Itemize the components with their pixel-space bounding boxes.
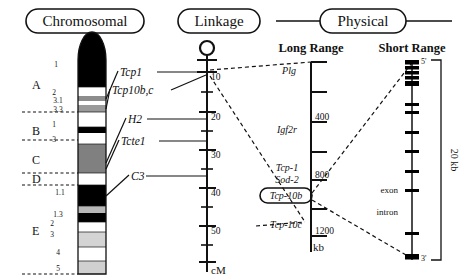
arm-label-e: E — [32, 224, 39, 238]
subband-label: 1 — [52, 120, 56, 129]
gene-label-tcp10bc: Tcp10b,c — [112, 84, 153, 97]
exon — [405, 150, 419, 153]
five-prime-label: 5' — [421, 57, 427, 66]
band — [78, 127, 106, 133]
linkage-tick-label: 10 — [211, 72, 221, 82]
subband-label: 2 — [50, 219, 54, 228]
marker-label-tcp10c: Tcp-10c — [270, 219, 302, 230]
linkage-map: 10 20 30 40 50 cM — [197, 41, 226, 276]
chromosome-subband-labels: 1 2 3.1 3.3 1 3 1.1 1.3 2 3 4 5 — [50, 60, 65, 273]
physical-title: Physical — [338, 13, 389, 29]
band — [78, 185, 106, 206]
band — [78, 261, 106, 274]
band — [78, 101, 106, 105]
gene-label-tcp1: Tcp1 — [120, 66, 142, 79]
exon — [405, 232, 419, 235]
subband-label: 3.1 — [53, 96, 63, 105]
gene-label-tcte1: Tcte1 — [121, 135, 146, 147]
short-range-heading: Short Range — [378, 41, 445, 55]
band — [78, 173, 106, 185]
panel-title-chromosomal: Chromosomal — [26, 9, 144, 33]
linkage-tick-label: 20 — [211, 112, 221, 122]
subband-label: 1.1 — [55, 188, 65, 197]
chromosome-ideogram — [78, 32, 106, 274]
short-range-map: Short Range 5' 3' exon intron — [377, 41, 461, 263]
long-range-tick-label: 800 — [315, 170, 330, 180]
panel-title-linkage: Linkage — [178, 9, 260, 33]
marker-label-igf2r: Igf2r — [276, 124, 297, 135]
long-range-heading: Long Range — [279, 41, 344, 55]
band — [78, 105, 106, 112]
long-range-tick-label: 1200 — [315, 226, 334, 236]
gene-label-c3: C3 — [131, 170, 145, 182]
exon — [405, 60, 419, 65]
marker-label-tcp10b: Tcp-10b — [270, 190, 302, 201]
linkage-tick-label: 30 — [211, 150, 221, 160]
band — [78, 222, 106, 232]
subband-label: 3 — [52, 135, 56, 144]
long-range-markers: Plg Igf2r Tcp-1 Sod-2 Tcp-10b Tcp-10c — [260, 65, 312, 230]
genetic-map-figure: Chromosomal Linkage Physical — [0, 0, 473, 280]
long-range-unit-label: kb — [313, 241, 325, 253]
exon — [405, 170, 419, 173]
chromosome-gene-labels: Tcp1 Tcp10b,c H2 Tcte1 C3 — [112, 66, 153, 182]
centromere-icon — [200, 41, 214, 55]
intron-annotation-label: intron — [377, 207, 399, 217]
arm-label-d: D — [32, 172, 41, 186]
chromosome-arm-labels: A B C D E — [32, 78, 41, 238]
exon-annotation-label: exon — [381, 185, 399, 195]
marker-label-tcp1: Tcp-1 — [276, 162, 298, 173]
long-range-tick-label: 400 — [315, 112, 330, 122]
exon — [405, 81, 419, 86]
band — [78, 213, 106, 222]
subband-label: 1 — [54, 60, 58, 69]
three-prime-label: 3' — [421, 254, 427, 263]
long-range-ticks — [311, 62, 327, 236]
marker-label-sod2: Sod-2 — [275, 174, 298, 185]
linkage-tick-label: 40 — [211, 188, 221, 198]
span-label-20kb: 20 kb — [449, 149, 460, 172]
subband-label: 5 — [56, 264, 60, 273]
band-region-dividers — [22, 112, 78, 274]
exon — [405, 189, 419, 192]
linkage-unit-label: cM — [211, 264, 226, 276]
chromosome-bands — [78, 32, 106, 274]
arm-label-b: B — [32, 124, 40, 138]
band — [78, 144, 106, 173]
exon — [405, 66, 419, 70]
band — [78, 206, 106, 213]
band — [78, 133, 106, 144]
exon — [405, 76, 419, 80]
exon — [405, 131, 419, 134]
subband-label: 4 — [56, 248, 60, 257]
exon — [405, 103, 419, 106]
marker-label-plg: Plg — [281, 65, 296, 76]
band — [78, 232, 106, 247]
span-bracket — [431, 60, 441, 260]
exon — [405, 254, 419, 260]
exon — [405, 71, 419, 75]
arm-label-c: C — [32, 153, 40, 167]
band — [78, 112, 106, 127]
gene-label-h2: H2 — [127, 113, 142, 125]
gene-to-linkage-connectors — [146, 72, 206, 176]
band — [78, 96, 106, 101]
linkage-tick-labels: 10 20 30 40 50 — [211, 72, 221, 236]
linkage-title: Linkage — [194, 13, 243, 29]
subband-label: 3 — [50, 230, 54, 239]
linkage-to-longrange-connectors — [210, 62, 311, 226]
chromosomal-title: Chromosomal — [43, 13, 128, 29]
long-range-map: Long Range 400 800 1200 kb Plg Igf2r — [260, 41, 344, 253]
band — [78, 247, 106, 261]
band — [78, 87, 106, 96]
panel-title-physical: Physical — [276, 9, 452, 33]
linkage-tick-label: 50 — [211, 226, 221, 236]
long-range-tick-labels: 400 800 1200 — [315, 112, 334, 236]
subband-label: 3.3 — [53, 105, 63, 114]
subband-label: 1.3 — [53, 210, 63, 219]
exon — [405, 111, 419, 114]
arm-label-a: A — [32, 78, 41, 92]
